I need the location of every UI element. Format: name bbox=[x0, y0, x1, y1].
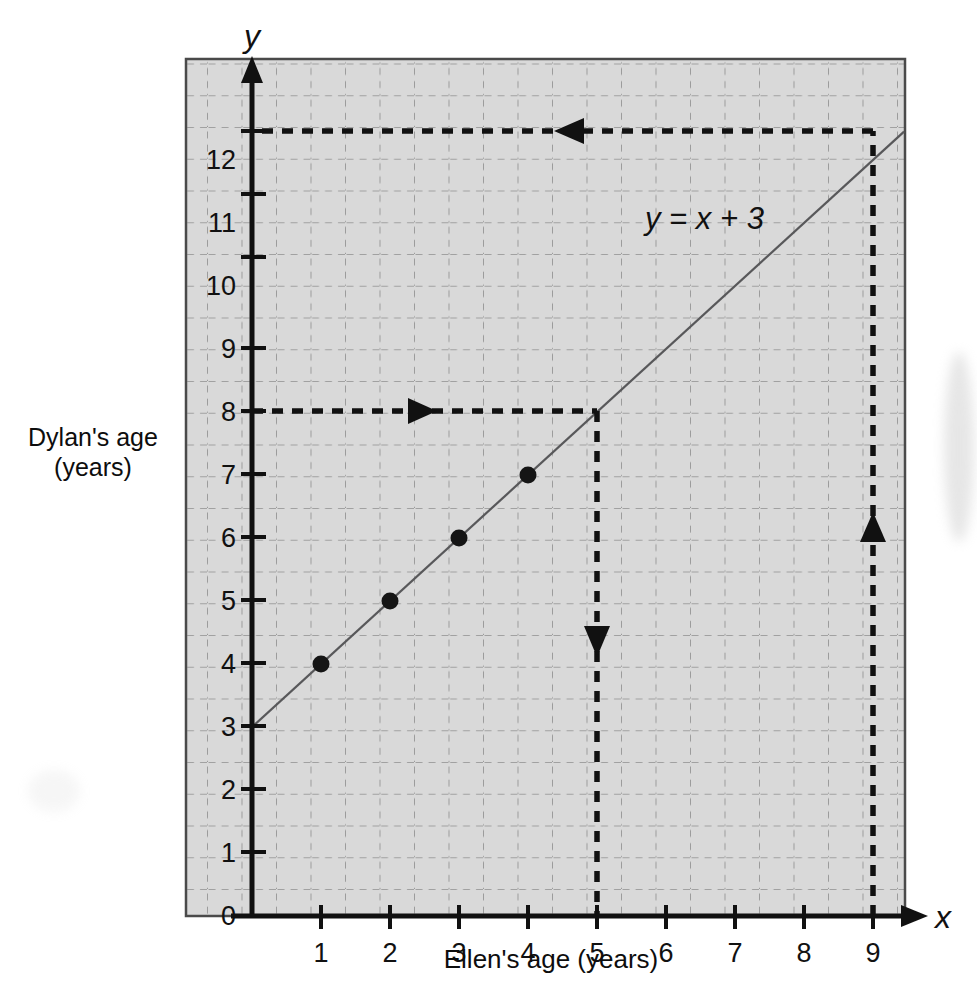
scan-artifact-left bbox=[28, 770, 80, 812]
grid-lines bbox=[186, 59, 905, 916]
y-tick-label: 12 bbox=[206, 145, 236, 175]
data-point bbox=[382, 593, 399, 610]
x-axis-symbol: x bbox=[933, 899, 952, 935]
x-axis-arrowhead bbox=[901, 905, 928, 927]
graph-figure: 0 1 2 3 4 5 6 7 8 9 10 11 12 1 2 3 4 5 6… bbox=[0, 0, 977, 988]
x-axis-title: Ellen's age (years) bbox=[316, 944, 786, 974]
y-tick-label: 7 bbox=[221, 460, 236, 490]
y-tick-label: 9 bbox=[221, 334, 236, 364]
equation-label: y = x + 3 bbox=[643, 201, 764, 236]
data-point bbox=[451, 530, 468, 547]
y-axis-title: Dylan's age (years) bbox=[4, 422, 182, 482]
y-tick-label: 11 bbox=[208, 208, 236, 238]
y-tick-label: 1 bbox=[221, 838, 236, 868]
scan-artifact-right bbox=[944, 352, 974, 542]
y-tick-label: 0 bbox=[221, 901, 236, 931]
x-tick-label: 8 bbox=[796, 938, 811, 968]
y-tick-label: 3 bbox=[221, 712, 236, 742]
y-tick-label: 6 bbox=[221, 523, 236, 553]
y-axis-symbol: y bbox=[242, 18, 262, 54]
x-tick-label: 9 bbox=[865, 938, 880, 968]
y-tick-label: 8 bbox=[221, 397, 236, 427]
data-point bbox=[520, 467, 537, 484]
y-tick-label: 5 bbox=[221, 586, 236, 616]
data-point bbox=[313, 656, 330, 673]
coordinate-graph: 0 1 2 3 4 5 6 7 8 9 10 11 12 1 2 3 4 5 6… bbox=[0, 0, 977, 988]
y-tick-label: 2 bbox=[221, 775, 236, 805]
y-tick-label: 10 bbox=[206, 271, 236, 301]
y-tick-label: 4 bbox=[221, 649, 236, 679]
